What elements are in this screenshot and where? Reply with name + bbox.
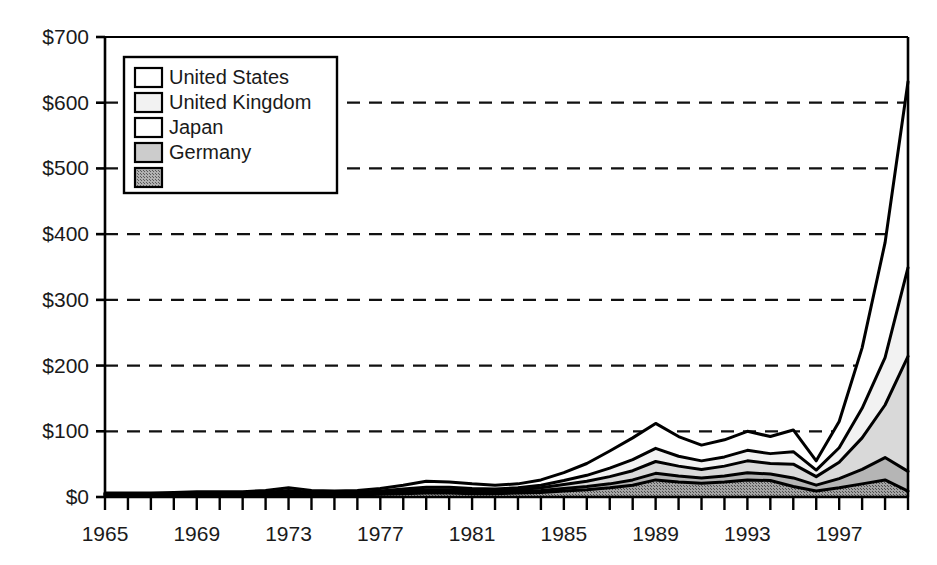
x-tick-label-1977: 1977 (357, 522, 404, 545)
x-axis-tick-labels: 196519691973197719811985198919931997 (82, 522, 863, 545)
chart-legend: United StatesUnited KingdomJapanGermany (124, 57, 337, 193)
legend-swatch-germany (135, 143, 162, 162)
stacked-area-chart: $0$100$200$300$400$500$600$700 196519691… (0, 0, 937, 565)
x-tick-label-1965: 1965 (82, 522, 129, 545)
legend-swatch-united-kingdom (135, 93, 162, 112)
x-tick-label-1973: 1973 (265, 522, 312, 545)
legend-label-germany: Germany (169, 141, 251, 163)
x-tick-label-1981: 1981 (449, 522, 496, 545)
x-tick-label-1993: 1993 (724, 522, 771, 545)
legend-label-united-kingdom: United Kingdom (169, 91, 311, 113)
y-tick-label-200: $200 (42, 354, 89, 377)
legend-swatch-japan (135, 118, 162, 137)
x-tick-label-1989: 1989 (632, 522, 679, 545)
y-tick-label-500: $500 (42, 156, 89, 179)
legend-swatch-unlabeled (135, 168, 162, 187)
x-tick-label-1985: 1985 (540, 522, 587, 545)
legend-swatch-united-states (135, 68, 162, 87)
y-tick-label-300: $300 (42, 288, 89, 311)
chart-canvas: $0$100$200$300$400$500$600$700 196519691… (0, 0, 937, 565)
x-tick-label-1997: 1997 (816, 522, 863, 545)
x-tick-label-1969: 1969 (173, 522, 220, 545)
legend-label-japan: Japan (169, 116, 224, 138)
y-tick-label-100: $100 (42, 419, 89, 442)
y-tick-label-400: $400 (42, 222, 89, 245)
y-tick-label-0: $0 (66, 485, 89, 508)
legend-label-united-states: United States (169, 66, 289, 88)
y-tick-label-600: $600 (42, 91, 89, 114)
y-tick-label-700: $700 (42, 25, 89, 48)
